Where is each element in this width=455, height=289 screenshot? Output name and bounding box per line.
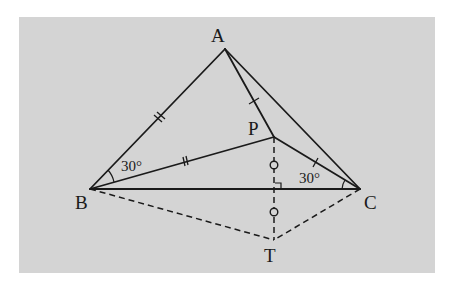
equal-mark-circle-lower: [270, 208, 278, 216]
angle-label-c: 30°: [299, 170, 320, 186]
equal-mark-circle-upper: [270, 161, 278, 169]
geometry-diagram: A B C P T 30° 30°: [0, 0, 455, 289]
label-p: P: [248, 118, 259, 139]
label-b: B: [75, 192, 88, 213]
angle-label-b: 30°: [121, 158, 142, 174]
label-c: C: [364, 192, 377, 213]
diagram-background: [19, 17, 435, 273]
label-a: A: [211, 25, 225, 46]
label-t: T: [264, 245, 276, 266]
